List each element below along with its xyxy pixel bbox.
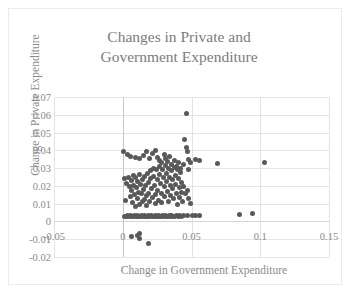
x-tick-label: 0.1 [254,231,267,242]
scatter-point [185,188,190,193]
y-tick-label: -0.02 [29,252,51,263]
x-axis-tick-labels: -0.0500.050.10.15 [54,231,329,247]
scatter-point [123,198,128,203]
chart-container: Changes in Private and Government Expend… [8,8,342,285]
scatter-point [141,153,146,158]
x-tick-label: 0 [120,231,125,242]
scatter-point [135,196,140,201]
scatter-point [144,203,149,208]
x-tick-label: -0.05 [43,231,65,242]
scatter-point [144,149,149,154]
y-tick-label: 0 [46,216,51,227]
scatter-point [237,212,242,217]
scatter-point [186,167,191,172]
scatter-point [188,160,193,165]
x-axis-title: Change in Government Expenditure [69,264,339,276]
chart-title-line-1: Changes in Private and [49,27,309,47]
scatter-point [215,161,220,166]
scatter-point [188,201,193,206]
scatter-point [250,211,255,216]
scatter-point [166,199,171,204]
scatter-point [167,154,172,159]
chart-title: Changes in Private and Government Expend… [49,27,309,67]
y-tick-label: 0.01 [33,198,51,209]
scatter-point [147,156,152,161]
scatter-point [197,158,202,163]
x-tick-label: 0.05 [182,231,200,242]
y-gridline [54,257,329,258]
scatter-point [186,196,191,201]
scatter-point [153,192,158,197]
scatter-point [152,183,157,188]
scatter-point [262,160,267,165]
x-tick-label: 0.15 [320,231,338,242]
scatter-point [153,148,158,153]
chart-title-line-2: Government Expenditure [49,47,309,67]
scatter-point [178,170,183,175]
y-axis-title: Change in Private Expenditure [29,18,41,193]
scatter-point [197,213,202,218]
scatter-point [170,186,175,191]
scatter-point [182,137,187,142]
scatter-point [175,202,180,207]
scatter-point [181,162,186,167]
scatter-point [171,196,176,201]
scatter-point [185,149,190,154]
